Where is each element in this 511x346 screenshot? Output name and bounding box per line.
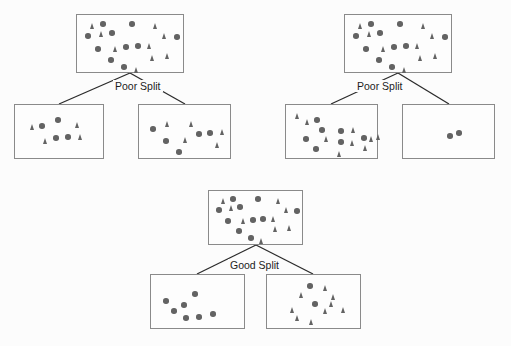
class-b-triangle-marker [418,55,422,61]
class-b-triangle-marker [153,23,157,29]
class-a-circle-marker [121,64,127,70]
class-a-circle-marker [391,44,397,50]
class-b-triangle-marker [221,198,225,204]
class-b-triangle-marker [273,226,277,232]
class-b-triangle-marker [113,46,117,52]
class-a-circle-marker [319,127,325,133]
class-b-triangle-marker [183,137,187,143]
class-a-circle-marker [377,30,383,36]
class-a-circle-marker [312,301,318,307]
class-a-circle-marker [368,21,374,27]
class-b-triangle-marker [415,43,419,49]
class-a-circle-marker [150,126,156,132]
class-b-triangle-marker [90,23,94,29]
class-b-triangle-marker [381,46,385,52]
class-b-triangle-marker [99,31,103,37]
class-a-circle-marker [260,216,266,222]
right-child-node-box [266,274,361,329]
class-a-circle-marker [174,34,180,40]
class-a-circle-marker [250,217,256,223]
class-b-triangle-marker [402,67,406,73]
class-a-circle-marker [236,228,242,234]
diagram-canvas: Poor SplitPoor SplitGood Split [0,0,511,346]
class-a-circle-marker [129,21,135,27]
class-a-circle-marker [307,283,313,289]
class-b-triangle-marker [305,119,309,125]
class-b-triangle-marker [323,285,327,291]
left-child-node-box [285,104,378,159]
class-b-triangle-marker [350,140,354,146]
class-a-circle-marker [55,117,61,123]
class-a-circle-marker [313,146,319,152]
scatter-marker-layer [345,15,451,72]
class-a-circle-marker [397,21,403,27]
scatter-marker-layer [15,105,103,158]
class-a-circle-marker [100,21,106,27]
class-a-circle-marker [447,133,453,139]
right-child-node-box [138,104,231,159]
class-b-triangle-marker [147,43,151,49]
class-a-circle-marker [196,131,202,137]
class-b-triangle-marker [150,55,154,61]
class-b-triangle-marker [329,301,333,307]
class-a-circle-marker [192,291,198,297]
class-a-circle-marker [196,314,202,320]
class-a-circle-marker [109,30,115,36]
class-a-circle-marker [163,298,169,304]
class-b-triangle-marker [433,53,437,59]
class-a-circle-marker [123,44,129,50]
scatter-marker-layer [403,105,494,158]
class-a-circle-marker [363,46,369,52]
scatter-marker-layer [209,191,302,244]
class-b-triangle-marker [229,205,233,211]
class-b-triangle-marker [421,23,425,29]
class-a-circle-marker [294,208,300,214]
class-b-triangle-marker [299,292,303,298]
class-b-triangle-marker [30,124,34,130]
class-a-circle-marker [361,135,367,141]
class-b-triangle-marker [134,67,138,73]
class-a-circle-marker [207,130,213,136]
class-b-triangle-marker [363,145,367,151]
tree-edge [398,73,449,104]
class-b-triangle-marker [290,307,294,313]
left-child-node-box [150,274,245,329]
class-b-triangle-marker [376,134,380,140]
class-a-circle-marker [248,235,254,241]
class-a-circle-marker [353,33,359,39]
class-b-triangle-marker [276,198,280,204]
class-a-circle-marker [171,308,177,314]
class-a-circle-marker [303,136,309,142]
class-a-circle-marker [338,128,344,134]
class-a-circle-marker [338,139,344,145]
class-b-triangle-marker [331,294,335,300]
class-a-circle-marker [230,196,236,202]
class-a-circle-marker [163,138,169,144]
class-b-triangle-marker [220,129,224,135]
class-b-triangle-marker [78,134,82,140]
split-quality-label: Poor Split [113,80,163,92]
class-a-circle-marker [65,134,71,140]
class-b-triangle-marker [43,138,47,144]
class-a-circle-marker [255,196,261,202]
class-b-triangle-marker [215,142,219,148]
scatter-marker-layer [286,105,377,158]
split-quality-label: Good Split [228,259,281,271]
root-node-box [76,14,184,73]
class-b-triangle-marker [337,151,341,157]
class-a-circle-marker [389,64,395,70]
scatter-marker-layer [267,275,360,328]
class-a-circle-marker [181,302,187,308]
class-b-triangle-marker [295,113,299,119]
class-a-circle-marker [456,130,462,136]
class-a-circle-marker [135,43,141,49]
class-a-circle-marker [85,33,91,39]
class-b-triangle-marker [367,31,371,37]
class-b-triangle-marker [430,33,434,39]
left-child-node-box [14,104,104,159]
class-a-circle-marker [225,218,231,224]
class-b-triangle-marker [369,136,373,142]
class-b-triangle-marker [324,136,328,142]
class-a-circle-marker [183,315,189,321]
class-b-triangle-marker [341,307,345,313]
